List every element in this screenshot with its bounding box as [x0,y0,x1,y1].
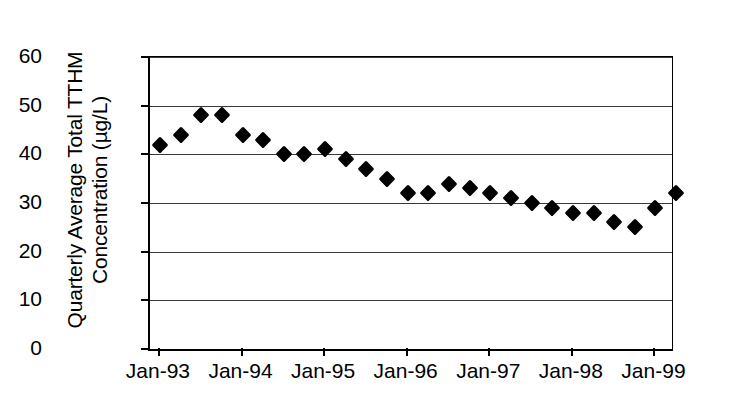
data-point [440,175,457,192]
data-point [317,141,334,158]
plot-area [148,56,673,351]
data-point [420,185,437,202]
data-point [234,126,251,143]
y-tick-label: 60 [0,45,42,66]
y-tick-label: 50 [0,94,42,115]
data-point [255,131,272,148]
data-point [482,185,499,202]
data-point [213,107,230,124]
data-point [358,160,375,177]
data-point [275,146,292,163]
data-point [296,146,313,163]
data-point [544,199,561,216]
data-point [399,185,416,202]
y-tick-label: 30 [0,191,42,212]
y-tick-mark [141,153,148,155]
data-point [585,204,602,221]
data-point [502,190,519,207]
data-point [626,219,643,236]
tthm-concentration-chart: Quarterly Average Total TTHM Concentrati… [0,0,732,416]
y-tick-mark [141,202,148,204]
data-point [564,204,581,221]
data-point [668,185,685,202]
y-tick-mark [141,105,148,107]
data-point [193,107,210,124]
data-point [172,126,189,143]
data-point [523,195,540,212]
x-tick-label: Jan-99 [598,360,708,382]
y-tick-mark [141,56,148,58]
y-tick-mark [141,348,148,350]
y-tick-label: 40 [0,142,42,163]
data-point [606,214,623,231]
data-point [647,199,664,216]
y-tick-mark [141,251,148,253]
data-point [379,170,396,187]
gridline [150,154,672,155]
data-point [151,136,168,153]
y-tick-label: 10 [0,288,42,309]
data-point [461,180,478,197]
y-tick-mark [141,299,148,301]
y-tick-label: 0 [0,337,42,358]
gridline [150,300,672,301]
y-tick-label: 20 [0,240,42,261]
gridline [150,252,672,253]
gridline [150,106,672,107]
y-axis-title-line-2: Concentration (µg/L) [87,0,112,390]
y-axis-title-line-1: Quarterly Average Total TTHM [62,0,87,390]
data-point [337,151,354,168]
gridline [150,57,672,58]
